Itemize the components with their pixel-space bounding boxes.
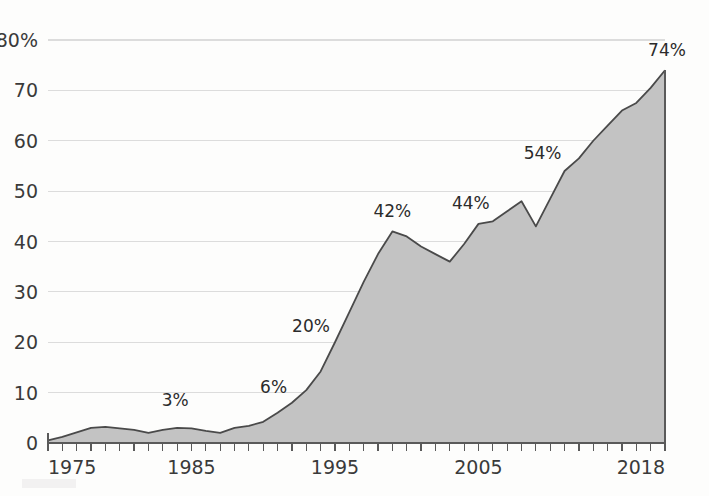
data-point-label: 44% [452,193,490,213]
page-artifact [22,479,76,488]
y-tick-label: 70 [14,79,38,101]
x-tickmarks [48,443,665,451]
x-tick-label: 1975 [48,456,96,478]
data-point-label: 74% [648,40,686,60]
data-point-label: 54% [524,143,562,163]
y-tick-label: 60 [14,130,38,152]
y-tick-label: 50 [14,180,38,202]
x-axis-labels: 19751985199520052018 [48,456,665,478]
y-axis-labels: 01020304050607080% [0,29,38,454]
x-tick-label: 2018 [617,456,665,478]
y-tick-label: 10 [14,382,38,404]
data-point-label: 3% [162,390,189,410]
data-point-label: 20% [292,316,330,336]
y-tick-label: 40 [14,231,38,253]
area-fill-shape [48,70,665,443]
area-chart: 01020304050607080% 19751985199520052018 … [0,0,709,496]
data-point-label: 6% [260,377,287,397]
y-tick-label: 20 [14,331,38,353]
y-tick-label: 30 [14,281,38,303]
chart-canvas: 01020304050607080% 19751985199520052018 … [0,0,709,496]
area-series [48,70,665,443]
y-tick-label: 80% [0,29,38,51]
x-tick-label: 2005 [454,456,502,478]
y-tick-label: 0 [26,432,38,454]
x-tick-label: 1995 [311,456,359,478]
data-point-label: 42% [373,201,411,221]
x-tick-label: 1985 [167,456,215,478]
